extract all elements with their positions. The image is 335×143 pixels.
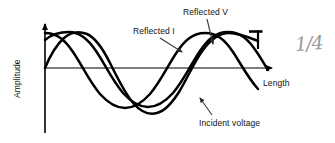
label-reflected-i: Reflected I [133, 27, 175, 36]
x-axis-label: Length [263, 79, 290, 88]
callout-lines [0, 0, 335, 143]
callout-line-reflected-v [207, 19, 213, 44]
label-reflected-v: Reflected V [183, 8, 228, 17]
handwritten-note: 1/4 [294, 31, 323, 55]
callout-line-reflected-i [160, 38, 182, 52]
label-incident-voltage: Incident voltage [199, 119, 260, 128]
callout-line-incident-voltage [200, 98, 212, 115]
transmission-line-standing-wave-figure: Amplitude Length Reflected I Reflected V… [0, 0, 335, 143]
y-axis-label: Amplitude [13, 59, 22, 98]
